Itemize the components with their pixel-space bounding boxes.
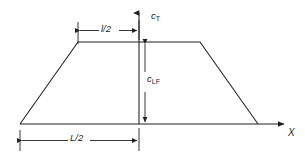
- y-axis-label-subscript: T: [156, 15, 160, 22]
- y-axis-label: cT: [151, 11, 160, 21]
- figure-container: cT cLF l/2 L/2 X: [0, 0, 305, 160]
- height-dimension-label-subscript: LF: [152, 78, 160, 85]
- height-dimension-label: cLF: [147, 74, 160, 84]
- x-axis-label: X: [288, 128, 295, 138]
- bottom-dimension-label: L/2: [70, 133, 83, 143]
- top-dimension-label: l/2: [101, 24, 111, 34]
